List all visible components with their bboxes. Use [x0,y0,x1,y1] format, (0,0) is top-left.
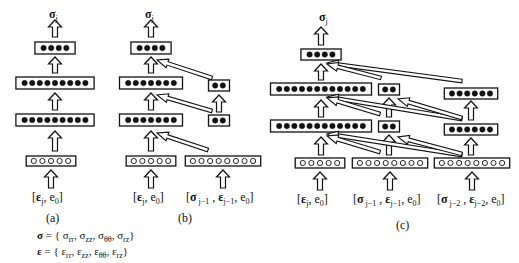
panel-c-mid-layer-2 [379,84,400,95]
neuron-node [164,80,169,85]
neuron-node [213,118,218,123]
panel-c-hidden-layer-2 [271,83,372,95]
neuron-node [30,80,35,85]
input-node [409,160,414,165]
up-arrow-icon [465,101,478,120]
neuron-node [337,123,342,128]
neuron-node [126,80,131,85]
up-arrow-icon [145,131,158,151]
input-node [40,158,45,163]
input-node [439,160,444,165]
panel-b-side-layer-2 [209,80,230,91]
up-arrow-icon [49,93,62,110]
panel-c-input-label-3: [σ j−2 , εj−2, e0] [437,193,504,208]
neuron-node [141,117,146,122]
input-node [131,158,136,163]
neuron-node [487,127,492,132]
layer-box [209,115,230,126]
neuron-node [52,80,57,85]
input-node [418,160,423,165]
neuron-node [322,86,327,91]
layer-box [434,158,509,168]
neuron-node [292,86,297,91]
neuron-node [299,86,304,91]
neuron-node [345,86,350,91]
neuron-node [353,86,358,91]
input-node [48,158,53,163]
neuron-node [353,123,358,128]
input-arrow-icon [45,170,58,188]
panel-a-input-layer [26,156,76,166]
neuron-node [360,86,365,91]
neuron-node [126,117,131,122]
neuron-node [390,124,395,129]
neuron-node [164,117,169,122]
input-node [148,158,153,163]
neuron-node [457,127,462,132]
neuron-node [220,118,225,123]
neuron-node [345,123,350,128]
input-node [448,160,453,165]
panel-c-caption: (c) [396,219,409,231]
input-node [400,160,405,165]
neuron-node [133,117,138,122]
input-node [190,158,195,163]
epsilon-definition: ε = { εrr, εzz, εθθ, εrz} [37,246,128,260]
network-diagram [0,0,519,263]
input-node [300,160,305,165]
input-node [457,160,462,165]
up-arrow-icon [315,100,328,117]
input-node [482,160,487,165]
input-arrow-icon [466,172,479,190]
neuron-node [60,117,65,122]
neuron-node [75,80,80,85]
input-node [208,158,213,163]
input-node [392,160,397,165]
neuron-node [299,123,304,128]
up-arrow-icon [145,57,158,73]
panel-b-input-label-1: [εj, e0] [133,191,164,206]
neuron-node [487,91,492,96]
neuron-node [330,52,335,57]
neuron-node [315,123,320,128]
panel-b-caption: (b) [178,212,192,224]
panel-a-output-label: σj [49,8,58,23]
neuron-node [68,117,73,122]
up-arrow-icon [315,137,328,155]
layer-box [379,84,400,95]
neuron-node [337,86,342,91]
neuron-node [449,91,454,96]
neuron-node [472,91,477,96]
neuron-node [141,80,146,85]
input-node [309,160,314,165]
panel-b-side-layer-1 [209,115,230,126]
neuron-node [156,117,161,122]
up-arrow-icon [465,138,478,155]
neuron-node [64,45,69,50]
neuron-node [45,80,50,85]
output-arrow-icon [315,27,328,45]
input-node [233,158,238,163]
sigma-definition: σ = { σrr, σzz, σθθ, σrz} [37,230,135,244]
neuron-node [457,91,462,96]
neuron-node [56,45,61,50]
input-node [465,160,470,165]
input-node [166,158,171,163]
neuron-node [148,80,153,85]
panel-a-output-layer [35,42,75,54]
panel-b-hidden-layer-2 [120,77,183,89]
neuron-node [171,80,176,85]
neuron-node [307,52,312,57]
panel-c-output-label: σj [319,11,328,26]
panel-b-output-layer [131,42,171,54]
neuron-node [83,117,88,122]
neuron-node [171,117,176,122]
panel-c-right-layer-2 [444,88,497,99]
neuron-node [307,86,312,91]
neuron-node [315,52,320,57]
input-node [140,158,145,163]
neuron-node [41,45,46,50]
neuron-node [83,80,88,85]
neuron-node [213,83,218,88]
neuron-node [137,45,142,50]
